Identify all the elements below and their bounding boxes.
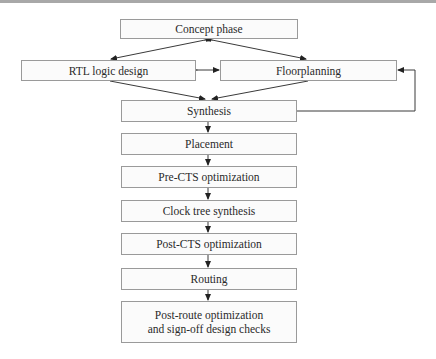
node-floorplanning: Floorplanning [220, 60, 397, 81]
node-pre-cts-optimization: Pre-CTS optimization [121, 166, 297, 188]
node-label-line2: and sign-off design checks [148, 322, 271, 336]
node-post-cts-optimization: Post-CTS optimization [121, 233, 297, 255]
edge-rtl-synthesis [110, 81, 205, 99]
node-rtl-logic-design: RTL logic design [21, 60, 196, 81]
node-label: Clock tree synthesis [163, 204, 256, 218]
node-post-route-optimization: Post-route optimization and sign-off des… [121, 301, 297, 343]
edge-concept-rtl [111, 40, 205, 59]
node-label: Placement [185, 137, 233, 151]
node-label: Post-CTS optimization [156, 237, 262, 251]
node-placement: Placement [121, 133, 297, 155]
node-label: RTL logic design [69, 64, 148, 78]
node-label: Pre-CTS optimization [158, 170, 259, 184]
node-label: Concept phase [175, 22, 242, 36]
node-label: Routing [190, 272, 227, 286]
node-label: Synthesis [187, 104, 231, 118]
node-label-line1: Post-route optimization [155, 308, 263, 322]
edge-floorplan-synthesis [212, 81, 308, 99]
edge-concept-floorplan [212, 40, 306, 59]
node-routing: Routing [121, 268, 297, 290]
node-label: Floorplanning [276, 64, 341, 78]
node-concept-phase: Concept phase [120, 19, 298, 39]
node-synthesis: Synthesis [121, 100, 297, 122]
node-clock-tree-synthesis: Clock tree synthesis [121, 200, 297, 222]
